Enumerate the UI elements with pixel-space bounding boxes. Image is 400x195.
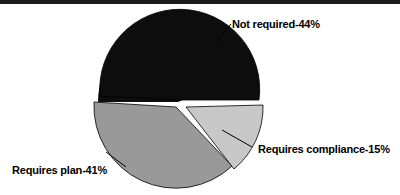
- pie-chart-figure: Not required-44% Requires compliance-15%…: [0, 0, 400, 195]
- slice-label-requires-plan: Requires plan-41%: [12, 164, 107, 176]
- slice-label-not-required: Not required-44%: [232, 18, 320, 30]
- slice-label-requires-compliance: Requires compliance-15%: [258, 143, 390, 155]
